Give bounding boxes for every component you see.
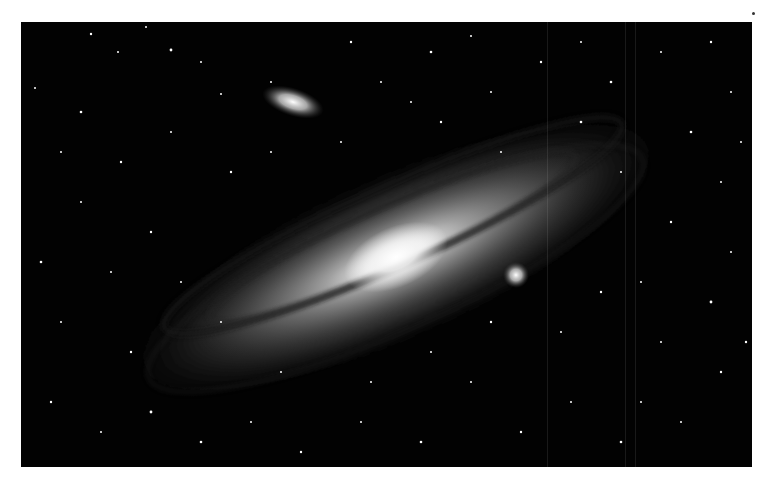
sensor-streak	[547, 22, 548, 467]
galaxy-photograph	[21, 22, 752, 467]
stray-dot	[752, 12, 755, 15]
sensor-streak	[625, 22, 626, 467]
sensor-streak	[635, 22, 636, 467]
galaxy-illustration	[21, 22, 752, 467]
